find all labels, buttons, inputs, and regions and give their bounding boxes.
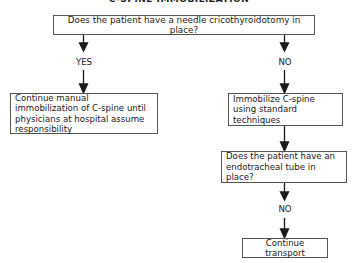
action-text: Continue transport [247, 238, 323, 259]
no-label-1: NO [265, 57, 305, 67]
question-text: Does the patient have an endotracheal tu… [226, 151, 342, 182]
question-text: Does the patient have a needle cricothyr… [58, 15, 310, 36]
action-continue-transport: Continue transport [242, 238, 328, 258]
action-continue-manual-immobilization: Continue manual immobilization of C-spin… [10, 93, 158, 134]
action-text: Immobilize C-spine using standard techni… [233, 94, 338, 125]
yes-label: YES [64, 57, 104, 67]
action-immobilize-c-spine: Immobilize C-spine using standard techni… [228, 93, 343, 126]
action-text: Continue manual immobilization of C-spin… [15, 93, 153, 135]
no-label-2: NO [265, 204, 305, 214]
question-needle-cricothyroidotomy: Does the patient have a needle cricothyr… [53, 15, 315, 35]
question-endotracheal-tube: Does the patient have an endotracheal tu… [221, 151, 347, 183]
